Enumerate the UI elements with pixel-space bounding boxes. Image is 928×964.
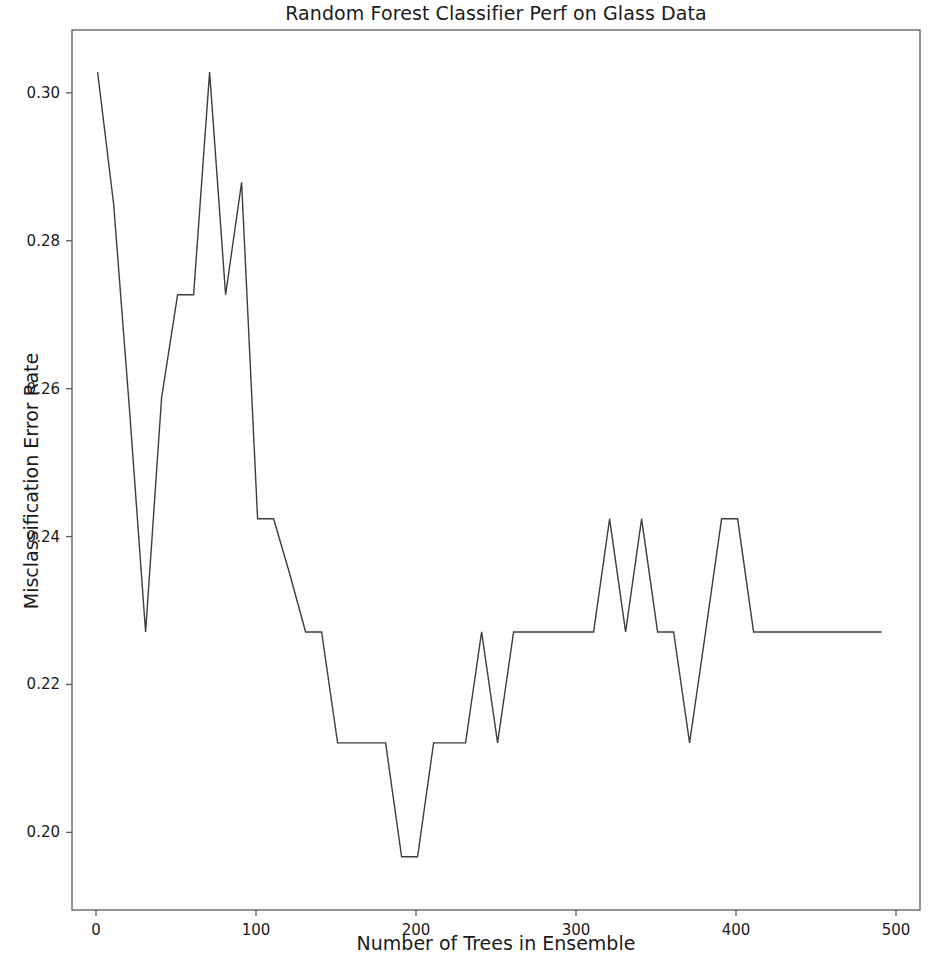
y-tick-label: 0.20 xyxy=(27,823,60,841)
axes-frame xyxy=(72,30,920,910)
x-tick-label: 100 xyxy=(242,921,271,939)
y-tick-label: 0.26 xyxy=(27,380,60,398)
x-tick-label: 0 xyxy=(91,921,101,939)
y-tick-label: 0.28 xyxy=(27,232,60,250)
y-axis-ticks: 0.200.220.240.260.280.30 xyxy=(27,84,72,841)
x-tick-label: 400 xyxy=(722,921,751,939)
x-tick-label: 300 xyxy=(562,921,591,939)
x-tick-label: 200 xyxy=(402,921,431,939)
x-axis-ticks: 0100200300400500 xyxy=(91,910,910,939)
y-tick-label: 0.22 xyxy=(27,675,60,693)
y-tick-label: 0.30 xyxy=(27,84,60,102)
chart-figure: Random Forest Classifier Perf on Glass D… xyxy=(0,0,928,964)
x-tick-label: 500 xyxy=(882,921,911,939)
plot-area: 0100200300400500 0.200.220.240.260.280.3… xyxy=(0,0,928,964)
y-tick-label: 0.24 xyxy=(27,528,60,546)
